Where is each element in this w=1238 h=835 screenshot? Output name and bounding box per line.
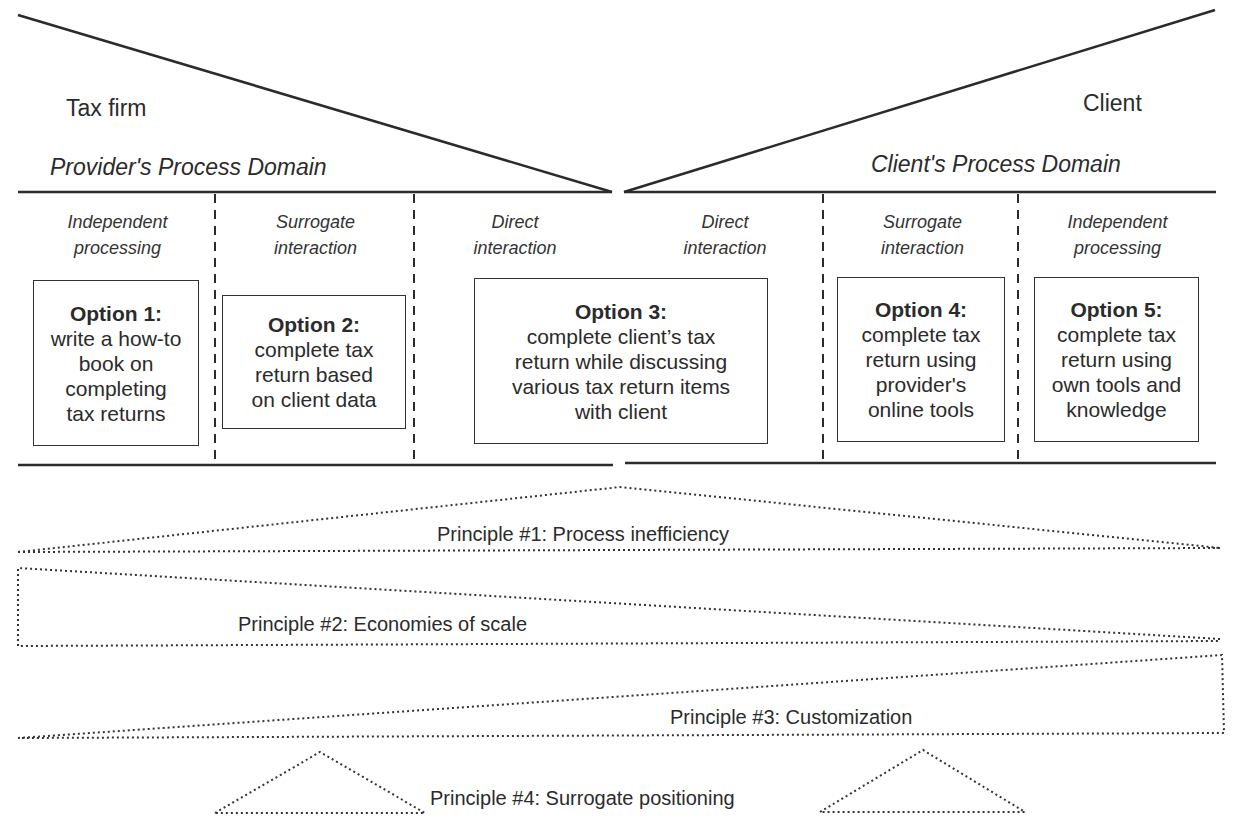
provider-domain-label: Provider's Process Domain bbox=[50, 154, 327, 181]
principle-3-shape bbox=[18, 655, 1224, 738]
principle-4-label: Principle #4: Surrogate positioning bbox=[430, 787, 735, 810]
mode-provider-independent: Independent processing bbox=[30, 209, 205, 261]
option-1-box: Option 1: write a how-to book on complet… bbox=[33, 280, 199, 446]
mode-client-independent: Independent processing bbox=[1025, 209, 1210, 261]
option-3-description: complete client’s tax return while discu… bbox=[512, 324, 730, 424]
option-4-box: Option 4: complete tax return using prov… bbox=[837, 277, 1005, 442]
option-5-title: Option 5: bbox=[1070, 297, 1162, 322]
option-2-description: complete tax return based on client data bbox=[252, 337, 377, 412]
option-3-title: Option 3: bbox=[575, 299, 667, 324]
principle-3-label: Principle #3: Customization bbox=[670, 706, 912, 729]
option-5-description: complete tax return using own tools and … bbox=[1052, 322, 1182, 422]
principle-4-right-triangle bbox=[820, 750, 1025, 812]
client-actor-label: Client bbox=[1083, 90, 1142, 117]
option-5-box: Option 5: complete tax return using own … bbox=[1034, 277, 1199, 442]
mode-client-surrogate: Surrogate interaction bbox=[835, 209, 1010, 261]
option-1-description: write a how-to book on completing tax re… bbox=[51, 326, 182, 426]
principle-2-label: Principle #2: Economies of scale bbox=[238, 613, 527, 636]
client-domain-label: Client's Process Domain bbox=[871, 151, 1121, 178]
option-1-title: Option 1: bbox=[70, 301, 162, 326]
mode-client-direct: Direct interaction bbox=[635, 209, 815, 261]
option-2-title: Option 2: bbox=[268, 312, 360, 337]
option-4-description: complete tax return using provider's onl… bbox=[861, 322, 980, 422]
mode-provider-surrogate: Surrogate interaction bbox=[228, 209, 403, 261]
principle-4-left-triangle bbox=[215, 752, 425, 813]
principle-2-shape bbox=[18, 568, 1220, 646]
option-3-box: Option 3: complete client’s tax return w… bbox=[474, 278, 768, 444]
option-4-title: Option 4: bbox=[875, 297, 967, 322]
principle-1-label: Principle #1: Process inefficiency bbox=[437, 523, 729, 546]
provider-actor-label: Tax firm bbox=[66, 95, 147, 122]
option-2-box: Option 2: complete tax return based on c… bbox=[222, 295, 406, 429]
mode-provider-direct: Direct interaction bbox=[425, 209, 605, 261]
